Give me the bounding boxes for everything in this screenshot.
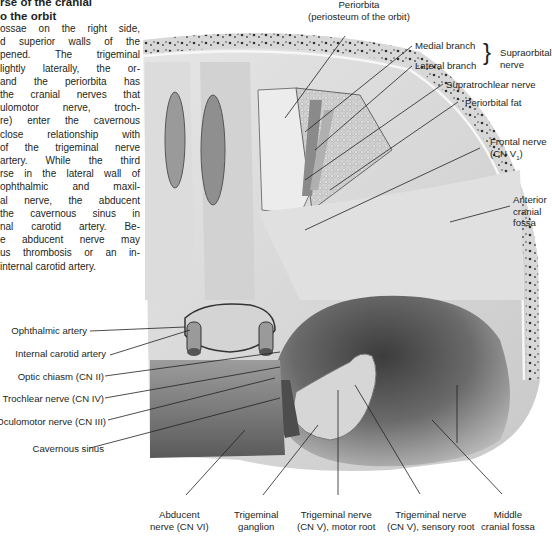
middle-cranial-fossa-shape (278, 296, 510, 467)
label-trigeminal-sensory-root: Trigeminal nerve (CN V), sensory root (387, 509, 474, 532)
label-optic-chiasm: Optic chiasm (CN II) (18, 371, 104, 383)
label-periorbital-fat: Periorbital fat (465, 97, 522, 109)
label-trigeminal-ganglion: Trigeminal ganglion (234, 509, 278, 532)
label-ophthalmic-artery: Ophthalmic artery (11, 325, 87, 337)
label-periorbita: Periorbita (periosteum of the orbit) (308, 0, 410, 22)
label-frontal-nerve: Frontal nerve (CN V1) (490, 136, 547, 164)
label-supratrochlear-nerve: Supratrochlear nerve (446, 79, 536, 91)
label-internal-carotid-artery: Internal carotid artery (15, 348, 106, 360)
label-middle-cranial-fossa: Middle cranial fossa (481, 509, 535, 532)
label-trochlear-nerve: Trochlear nerve (CN IV) (3, 393, 104, 405)
label-oculomotor-nerve: Oculomotor nerve (CN III) (0, 416, 106, 428)
label-trigeminal-motor-root: Trigeminal nerve (CN V), motor root (297, 509, 375, 532)
label-anterior-cranial-fossa: Anterior cranial fossa (513, 194, 547, 229)
brace-icon: } (483, 40, 491, 64)
label-supraorbital-nerve: Supraorbital nerve (500, 47, 552, 70)
label-medial-branch: Medial branch (415, 40, 475, 52)
label-cavernous-sinus: Cavernous sinus (33, 443, 104, 455)
label-abducent-nerve: Abducent nerve (CN VI) (150, 509, 209, 532)
label-lateral-branch: Lateral branch (415, 60, 476, 72)
